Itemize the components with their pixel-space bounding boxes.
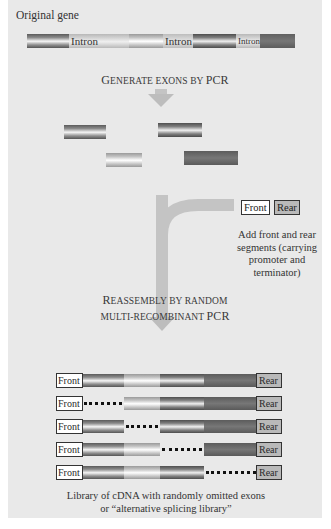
exon-3 (160, 466, 204, 479)
intron-2: Intron (163, 34, 197, 48)
step-text: PCR (206, 73, 229, 87)
intron-3: Intron (236, 34, 261, 48)
exon-4 (204, 443, 256, 456)
rear-segment: Rear (256, 442, 282, 457)
step-text: R (102, 293, 110, 307)
note-line: Add front and rear (222, 229, 331, 242)
library-caption: Library of cDNA with randomly omitted ex… (20, 489, 312, 515)
library-row-3: Front Rear (56, 419, 282, 434)
omitted-exon-dots (206, 471, 256, 476)
front-segment: Front (56, 373, 83, 388)
omitted-exon-dots (126, 425, 158, 430)
intron-1: Intron (69, 34, 129, 48)
exon-1 (82, 466, 124, 479)
exon-fragment-4 (184, 151, 238, 165)
library-row-5: Front Rear (56, 465, 282, 480)
exon-2 (124, 466, 160, 479)
exon-4 (204, 374, 256, 387)
exon-1 (27, 34, 69, 48)
library-row-4: Front Rear (56, 442, 282, 457)
exon-4 (204, 397, 256, 410)
front-segment: Front (56, 442, 83, 457)
note-line: segments (carrying (222, 242, 331, 255)
library-row-1: Front Rear (56, 373, 282, 388)
exon-1 (82, 420, 124, 433)
library-row-2: Front Rear (56, 396, 282, 411)
exon-fragment-2 (106, 153, 142, 167)
step-reassembly: REASSEMBLY BY RANDOM MULTI-RECOMBINANT P… (60, 293, 270, 325)
exon-3 (160, 420, 204, 433)
rear-segment: Rear (256, 465, 282, 480)
rear-segment: Rear (256, 396, 282, 411)
exon-2-part (129, 34, 163, 48)
front-segment: Front (56, 465, 83, 480)
exon-1 (82, 443, 124, 456)
rear-segment: Rear (256, 419, 282, 434)
front-segment: Front (56, 419, 83, 434)
caption-line: or “alternative splicing library” (20, 502, 312, 515)
omitted-exon-dots (162, 448, 202, 453)
down-arrow-icon (148, 94, 174, 107)
add-segments-note: Add front and rear segments (carrying pr… (222, 229, 331, 279)
exon-2 (124, 397, 160, 410)
step-text: PCR (207, 309, 230, 323)
note-line: terminator) (222, 267, 331, 280)
exon-4 (204, 420, 256, 433)
exon-4 (260, 34, 295, 48)
exon-3 (193, 34, 237, 48)
exon-2 (124, 374, 160, 387)
step-text: ENERATE EXONS BY (110, 76, 206, 86)
exon-fragment-1 (64, 125, 106, 139)
front-segment: Front (56, 396, 83, 411)
front-segment: Front (241, 200, 270, 215)
original-gene-bar: Intron Intron Intron (27, 34, 295, 48)
note-line: promoter and (222, 254, 331, 267)
omitted-exon-dots (84, 402, 122, 407)
exon-2 (124, 443, 160, 456)
step-generate-exons: GENERATE EXONS BY PCR (60, 73, 270, 88)
exon-1 (82, 374, 124, 387)
exon-3 (160, 374, 204, 387)
step-text: G (101, 73, 110, 87)
rear-segment: Rear (256, 373, 282, 388)
caption-line: Library of cDNA with randomly omitted ex… (20, 489, 312, 502)
step-text: EASSEMBLY BY RANDOM (111, 296, 228, 306)
step-text: MULTI-RECOMBINANT (100, 312, 206, 322)
exon-3 (160, 397, 204, 410)
original-gene-label: Original gene (16, 9, 79, 21)
exon-fragment-3 (158, 123, 202, 137)
rear-segment: Rear (274, 200, 300, 215)
